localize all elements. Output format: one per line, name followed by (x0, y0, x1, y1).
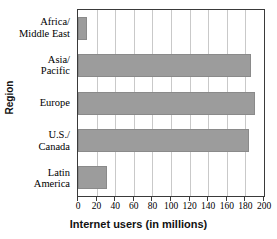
bar-europe (78, 92, 255, 115)
x-axis-tick-label: 100 (164, 201, 178, 211)
bar-slot (78, 10, 264, 47)
category-axis-labels: Africa/ Middle East Asia/ Pacific Europe… (0, 9, 74, 197)
x-axis-tick-label: 0 (76, 201, 81, 211)
x-axis-tick-label: 140 (201, 201, 215, 211)
category-label-line: Africa/ (40, 16, 70, 28)
x-axis-title: Internet users (in millions) (0, 218, 277, 230)
category-label-us-canada: U.S./ Canada (0, 122, 74, 160)
x-axis-tick-label: 120 (182, 201, 196, 211)
bar-us-canada (78, 129, 249, 152)
category-label-line: Middle East (19, 28, 70, 40)
category-label-line: Canada (39, 141, 71, 153)
category-label-line: Latin (48, 167, 70, 179)
x-axis-tick-label: 200 (257, 201, 271, 211)
category-label-africa-middle-east: Africa/ Middle East (0, 9, 74, 47)
x-axis-tick-label: 160 (220, 201, 234, 211)
bar-slot (78, 122, 264, 159)
category-label-line: U.S./ (48, 129, 70, 141)
bar-africa-middle-east (78, 17, 87, 40)
bar-series (78, 10, 264, 196)
plot-area (77, 9, 265, 197)
category-label-line: America (34, 178, 70, 190)
bar-slot (78, 159, 264, 196)
x-axis-tick-labels: 020406080100120140160180200 (0, 201, 277, 215)
x-axis-tick-label: 60 (129, 201, 139, 211)
x-axis-tick-label: 180 (238, 201, 252, 211)
x-axis-tick-label: 20 (92, 201, 102, 211)
category-label-latin-america: Latin America (0, 159, 74, 197)
x-axis-tick-label: 40 (110, 201, 120, 211)
bar-chart: Region Africa/ Middle East Asia/ Pacific… (0, 0, 277, 239)
bar-asia-pacific (78, 54, 251, 77)
category-label-europe: Europe (0, 84, 74, 122)
category-label-line: Asia/ (48, 54, 70, 66)
bar-latin-america (78, 166, 107, 189)
bar-slot (78, 84, 264, 121)
category-label-line: Europe (40, 97, 70, 109)
x-axis-tick-label: 80 (148, 201, 158, 211)
category-label-line: Pacific (41, 65, 70, 77)
bar-slot (78, 47, 264, 84)
category-label-asia-pacific: Asia/ Pacific (0, 47, 74, 85)
